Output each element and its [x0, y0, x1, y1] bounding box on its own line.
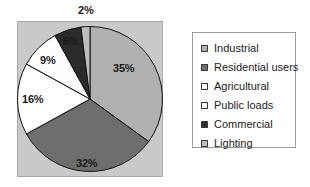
pie-slice-value-label: 35%: [113, 62, 134, 74]
legend-item-label: Industrial: [214, 43, 259, 54]
legend-item-label: Public loads: [214, 100, 273, 111]
legend-item-label: Commercial: [214, 119, 273, 130]
legend-swatch-icon: [201, 64, 208, 71]
pie-slice-value-label: 6%: [63, 35, 79, 47]
legend-swatch-icon: [201, 45, 208, 52]
legend-item-label: Lighting: [214, 138, 253, 149]
legend-item: Residential users: [201, 58, 295, 76]
legend-swatch-icon: [201, 83, 208, 90]
pie-slice-value-label: 32%: [76, 157, 97, 169]
pie-chart-figure: 35%32%16%9%6%2% IndustrialResidential us…: [0, 0, 310, 187]
legend-item: Commercial: [201, 115, 295, 133]
legend-item-label: Residential users: [214, 62, 298, 73]
legend-swatch-icon: [201, 140, 208, 147]
legend-swatch-icon: [201, 102, 208, 109]
chart-legend: IndustrialResidential usersAgriculturalP…: [192, 32, 296, 148]
legend-item: Public loads: [201, 96, 295, 114]
legend-item: Industrial: [201, 39, 295, 57]
pie-slice-value-label: 9%: [40, 54, 56, 66]
legend-item: Agricultural: [201, 77, 295, 95]
legend-item-list: IndustrialResidential usersAgriculturalP…: [201, 39, 295, 152]
legend-swatch-icon: [201, 121, 208, 128]
legend-item-label: Agricultural: [214, 81, 269, 92]
pie-slice-value-label: 16%: [22, 93, 43, 105]
legend-item: Lighting: [201, 134, 295, 152]
pie-slice-value-label: 2%: [78, 4, 94, 16]
